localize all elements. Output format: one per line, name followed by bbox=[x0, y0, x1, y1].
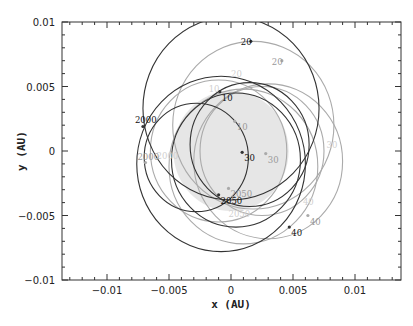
y-tick-label: 0 bbox=[49, 146, 55, 157]
point-label: 20 bbox=[272, 57, 283, 67]
faint-point-label: 10 bbox=[209, 84, 220, 94]
x-tick-label: −0.005 bbox=[150, 285, 187, 296]
plot-area: 1020200030402050200010203040205020001020… bbox=[135, 17, 343, 252]
point-label: 30 bbox=[244, 153, 255, 163]
y-tick-label: 0.005 bbox=[26, 82, 55, 93]
x-tick-label: −0.01 bbox=[92, 285, 123, 296]
point-label: 2050 bbox=[231, 189, 253, 199]
point-label: 40 bbox=[291, 228, 302, 238]
point-label: 2000 bbox=[137, 152, 159, 162]
orbit-chart: 1020200030402050200010203040205020001020… bbox=[0, 0, 413, 326]
y-tick-label: −0.005 bbox=[18, 211, 55, 222]
faint-point-label: 30 bbox=[326, 140, 337, 150]
faint-point-label: 2050 bbox=[229, 209, 251, 219]
faint-point-label: 2000 bbox=[157, 151, 179, 161]
faint-point-label: 40 bbox=[303, 197, 314, 207]
x-tick-label: 0 bbox=[228, 285, 234, 296]
point-label: 20 bbox=[241, 37, 252, 47]
point-label: 40 bbox=[310, 217, 321, 227]
y-tick-label: −0.01 bbox=[24, 275, 55, 286]
y-axis-label: y (AU) bbox=[15, 131, 28, 171]
x-tick-label: 0.005 bbox=[279, 285, 308, 296]
point-label: 10 bbox=[222, 93, 233, 103]
x-tick-label: 0.01 bbox=[344, 285, 366, 296]
point-label: 10 bbox=[237, 122, 248, 132]
point-label: 2000 bbox=[135, 115, 157, 125]
y-tick-label: 0.01 bbox=[33, 17, 55, 28]
point-label: 30 bbox=[268, 155, 279, 165]
x-axis-label: x (AU) bbox=[211, 298, 251, 311]
faint-point-label: 20 bbox=[231, 69, 242, 79]
